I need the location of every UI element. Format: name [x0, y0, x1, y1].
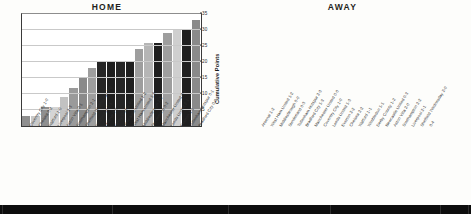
gridline: [22, 29, 201, 30]
y-tick-label: 20: [202, 59, 208, 64]
y-tick-label: 15: [202, 75, 208, 80]
footer-seam: [468, 205, 469, 214]
y-tick-label: 25: [202, 43, 208, 48]
gridline: [22, 77, 201, 78]
chart-page: HOME 5101520253035 Cumulative Points Cov…: [0, 0, 471, 214]
x-tick-label: 0-4: [428, 120, 435, 128]
chart-panel-away: AWAY 5101520253035 Cumulative Points Ars…: [236, 0, 471, 190]
y-tick-label: 35: [202, 11, 208, 16]
footer-seam: [112, 205, 113, 214]
chart-panel-home: HOME 5101520253035 Cumulative Points Cov…: [0, 0, 236, 190]
chart-title-away: AWAY: [236, 2, 449, 12]
footer-seam: [440, 205, 441, 214]
chart-title-home: HOME: [0, 2, 214, 12]
footer-seam: [2, 205, 3, 214]
y-axis-label-home: Cumulative Points: [214, 54, 220, 105]
footer-black-strip: [0, 205, 471, 214]
footer-seam: [228, 205, 229, 214]
gridline: [22, 61, 201, 62]
x-axis-labels-home: Coventry City 1-0Chelsea 0-2Watford 1-0L…: [0, 125, 236, 187]
x-axis-labels-away: Arsenal 1-2West Ham United 1-2Middlesbro…: [236, 125, 471, 187]
y-tick-label: 30: [202, 27, 208, 32]
gridline: [22, 45, 201, 46]
gridline: [22, 13, 201, 14]
gridline: [22, 93, 201, 94]
footer-seam: [330, 205, 331, 214]
